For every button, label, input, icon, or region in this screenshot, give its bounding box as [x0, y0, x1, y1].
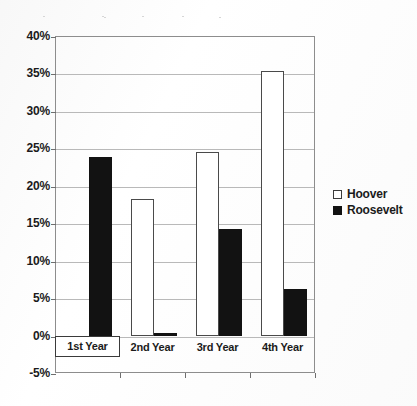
bar-hoover-4[interactable]	[261, 71, 284, 335]
scan-speckle	[43, 16, 45, 17]
y-axis: 40%35%30%25%20%15%10%5%0%-5%	[0, 36, 50, 373]
bar-group	[55, 36, 120, 373]
scan-speckle	[142, 16, 144, 17]
scan-speckle	[104, 17, 106, 18]
bar-group	[120, 36, 185, 373]
y-axis-tick-label: 25%	[4, 141, 50, 155]
bar-group	[250, 36, 315, 373]
bar-roosevelt-1[interactable]	[89, 157, 112, 335]
filled-square-icon	[333, 206, 342, 215]
x-axis-tick	[315, 373, 316, 378]
x-axis-tick	[120, 373, 121, 378]
x-axis-label-1[interactable]: 1st Year	[55, 336, 120, 357]
x-axis-label-3[interactable]: 3rd Year	[185, 341, 250, 353]
hollow-square-icon	[333, 190, 342, 199]
y-axis-tick-label: -5%	[4, 366, 50, 380]
scan-speckle	[182, 16, 184, 17]
bar-hoover-3[interactable]	[196, 152, 219, 335]
x-axis: 1st Year2nd Year3rd Year4th Year	[55, 341, 315, 363]
x-axis-label-4[interactable]: 4th Year	[250, 341, 315, 353]
chart-legend: HooverRoosevelt	[333, 186, 403, 218]
y-axis-tick-label: 20%	[4, 179, 50, 193]
y-axis-tick-label: 10%	[4, 254, 50, 268]
x-axis-tick	[185, 373, 186, 378]
legend-label: Roosevelt	[347, 203, 403, 217]
bars-layer	[55, 36, 315, 373]
y-axis-tick-label: 0%	[4, 329, 50, 343]
legend-item-hoover[interactable]: Hoover	[333, 186, 403, 202]
bar-chart: 40%35%30%25%20%15%10%5%0%-5% 1st Year2nd…	[0, 0, 417, 406]
y-axis-tick-label: 15%	[4, 216, 50, 230]
scan-speckle	[219, 17, 221, 18]
bar-roosevelt-2[interactable]	[154, 333, 177, 336]
x-axis-label-2[interactable]: 2nd Year	[120, 341, 185, 353]
bar-roosevelt-3[interactable]	[219, 229, 242, 335]
bar-group	[185, 36, 250, 373]
y-axis-tick-label: 35%	[4, 66, 50, 80]
bar-roosevelt-4[interactable]	[284, 289, 307, 335]
y-axis-tick-label: 40%	[4, 29, 50, 43]
legend-label: Hoover	[347, 187, 387, 201]
x-axis-tick	[250, 373, 251, 378]
legend-item-roosevelt[interactable]: Roosevelt	[333, 202, 403, 218]
y-axis-tick-label: 5%	[4, 291, 50, 305]
y-axis-tick	[51, 374, 56, 375]
bar-hoover-2[interactable]	[131, 199, 154, 335]
y-axis-tick-label: 30%	[4, 104, 50, 118]
